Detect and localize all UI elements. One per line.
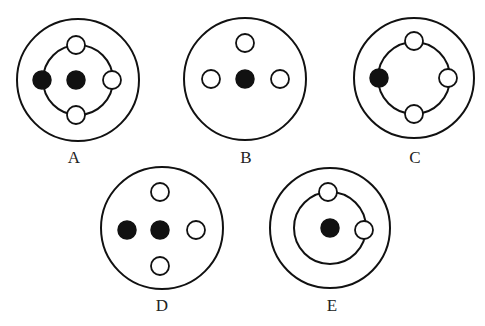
diagram-b: B	[184, 18, 306, 167]
filled-circle	[370, 69, 388, 87]
diagram-label: C	[409, 148, 420, 167]
open-circle	[67, 106, 85, 124]
open-circle	[355, 221, 373, 239]
diagram-label: E	[327, 296, 337, 315]
filled-circle	[118, 221, 136, 239]
open-circle	[439, 69, 457, 87]
diagram-label: D	[156, 296, 168, 315]
open-circle	[271, 70, 289, 88]
diagram-e: E	[270, 168, 390, 315]
open-circle	[151, 183, 169, 201]
diagram-d: D	[101, 167, 223, 315]
open-circle	[187, 221, 205, 239]
open-circle	[319, 183, 337, 201]
diagram-label: A	[68, 148, 81, 167]
open-circle	[405, 32, 423, 50]
open-circle	[151, 257, 169, 275]
filled-circle	[67, 71, 85, 89]
filled-circle	[33, 71, 51, 89]
open-circle	[236, 34, 254, 52]
diagram-label: B	[240, 148, 251, 167]
diagram-canvas: ABCDE	[0, 0, 485, 326]
diagram-c: C	[354, 18, 474, 167]
open-circle	[103, 71, 121, 89]
open-circle	[405, 105, 423, 123]
open-circle	[202, 70, 220, 88]
filled-circle	[321, 219, 339, 237]
diagram-a: A	[17, 19, 139, 167]
filled-circle	[151, 221, 169, 239]
filled-circle	[236, 70, 254, 88]
open-circle	[67, 36, 85, 54]
